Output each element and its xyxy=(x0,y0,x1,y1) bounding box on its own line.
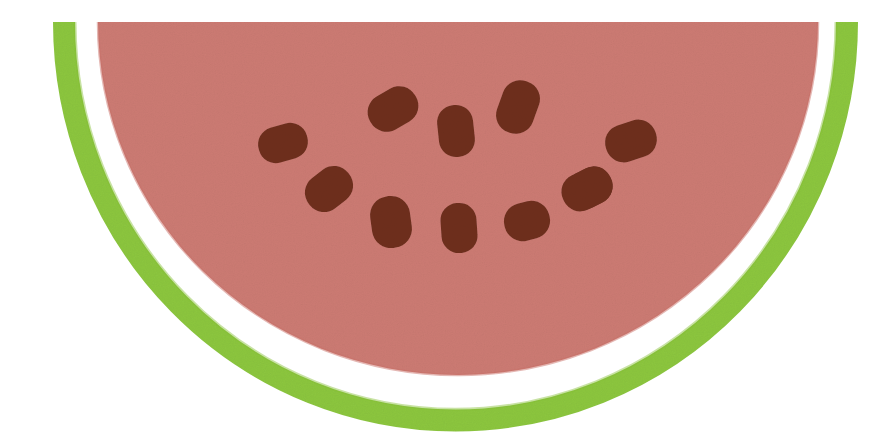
watermelon-illustration xyxy=(0,0,892,434)
seed xyxy=(439,202,478,254)
seed-body xyxy=(439,202,478,254)
illustration-canvas xyxy=(0,0,892,434)
